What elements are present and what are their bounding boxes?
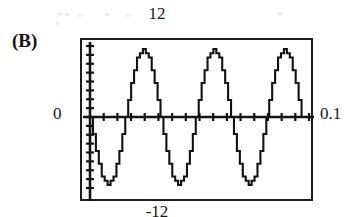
waveform-plot — [82, 40, 315, 203]
axis-label-bottom: -12 — [0, 202, 358, 217]
axis-label-left: 0 — [53, 104, 62, 124]
axis-label-top: 12 — [0, 4, 358, 24]
plot-frame — [80, 38, 313, 201]
figure-screenshot: (B) 12 -12 0 0.1 — [0, 0, 358, 217]
panel-letter: (B) — [12, 30, 37, 52]
axis-label-right: 0.1 — [320, 104, 341, 124]
